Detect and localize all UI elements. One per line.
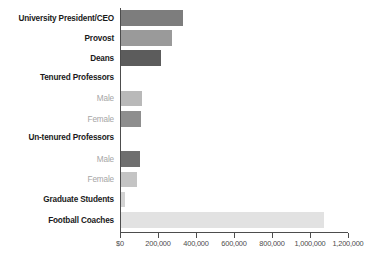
bar — [121, 172, 137, 188]
tick-label: 1,200,000 — [332, 239, 363, 248]
bar-chart: University President/CEOProvostDeansTenu… — [0, 0, 366, 266]
tick-mark — [310, 233, 311, 238]
bar — [121, 192, 125, 208]
bar — [121, 10, 183, 26]
tick-label: 1,000,000 — [294, 239, 325, 248]
category-label: Graduate Students — [43, 195, 114, 205]
tick-mark — [348, 233, 349, 238]
bar — [121, 30, 172, 46]
tick-label: $0 — [116, 239, 124, 248]
category-label: Male — [97, 94, 114, 104]
category-label: Female — [88, 175, 114, 185]
category-label: Female — [88, 115, 114, 125]
plot-area — [120, 0, 350, 232]
tick-label: 600,000 — [221, 239, 246, 248]
bar — [121, 212, 324, 228]
tick-label: 400,000 — [183, 239, 208, 248]
bar — [121, 50, 161, 66]
tick-mark — [158, 233, 159, 238]
tick-mark — [234, 233, 235, 238]
tick-label: 800,000 — [259, 239, 284, 248]
x-axis-ticks: $0200,000400,000600,000800,0001,000,0001… — [120, 233, 360, 253]
tick-mark — [196, 233, 197, 238]
bar — [121, 91, 142, 107]
bar — [121, 151, 140, 167]
bar — [121, 111, 141, 127]
category-label: University President/CEO — [18, 14, 114, 24]
category-label: Football Coaches — [48, 216, 114, 226]
category-axis-labels: University President/CEOProvostDeansTenu… — [0, 0, 116, 232]
tick-label: 200,000 — [145, 239, 170, 248]
category-label: Male — [97, 155, 114, 165]
category-label: Un-tenured Professors — [28, 133, 114, 143]
category-label: Provost — [85, 34, 114, 44]
category-label: Deans — [90, 54, 114, 64]
category-label: Tenured Professors — [40, 73, 114, 83]
tick-mark — [120, 233, 121, 238]
tick-mark — [272, 233, 273, 238]
